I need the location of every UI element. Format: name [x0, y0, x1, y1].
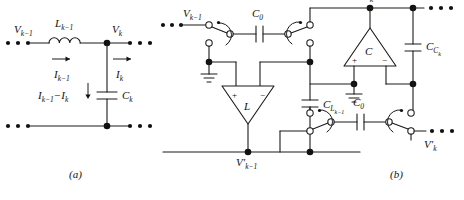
node-bottom-rail — [104, 123, 111, 130]
ellipsis-dot — [128, 41, 132, 45]
ellipsis-dot — [429, 6, 433, 10]
switch-blade — [212, 27, 227, 33]
switch-arc-dot — [318, 109, 321, 112]
switch-terminal-lower — [307, 128, 313, 134]
opamp-inductor-label: L — [243, 100, 250, 112]
label-v-in-b: Vk−1 — [183, 7, 202, 22]
switch-terminal-upper — [408, 110, 414, 116]
ellipsis-dot — [138, 124, 142, 128]
ellipsis-dot — [138, 41, 142, 45]
opamp-inductor-minus: − — [260, 90, 265, 100]
caption-b: (b) — [390, 168, 403, 181]
panel-b-circuit: + − L C + − — [160, 0, 464, 200]
caption-a: (a) — [69, 168, 82, 181]
switch-arc-dot — [299, 21, 302, 24]
switch-terminal-upper — [307, 110, 313, 116]
branch-current-arrowhead — [85, 95, 90, 100]
switch-terminal-lower — [206, 40, 212, 46]
label-vk-top: Vk — [363, 0, 374, 4]
opamp-capacitor-minus: − — [382, 55, 387, 65]
ellipsis-dot — [128, 124, 132, 128]
label-cap-c: CCk — [426, 40, 441, 57]
label-cap-bottom: C0 — [353, 96, 364, 111]
switch-arc-dot — [400, 109, 403, 112]
ellipsis-dot — [148, 41, 152, 45]
switch-pole — [285, 31, 291, 37]
label-cap-l: CLk−1 — [323, 98, 344, 115]
switch-blade — [392, 123, 408, 129]
switch-terminal-lower — [307, 40, 313, 46]
switch-pole — [386, 119, 392, 125]
node-bottom-rail-b — [307, 149, 314, 156]
label-vprime-k1: V′k−1 — [236, 156, 257, 171]
ellipsis-dot — [430, 129, 434, 133]
label-vprime-k: V′k — [424, 138, 437, 153]
label-cap-top: C0 — [252, 7, 263, 22]
panel-a-circuit: Vk−1 Lk−1 Ik−1 Vk Ik Ik−1−Ik Ck (a) — [0, 0, 165, 200]
ellipsis-dot — [16, 124, 20, 128]
switch-arc-dot — [217, 21, 220, 24]
opamp-capacitor-plus: + — [352, 55, 357, 65]
label-capacitor: Ck — [122, 89, 133, 104]
figure-container: Vk−1 Lk−1 Ik−1 Vk Ik Ik−1−Ik Ck (a) — [0, 0, 464, 200]
current-arrowhead-ik — [127, 56, 132, 61]
label-v-out: Vk — [112, 23, 123, 38]
opamp-capacitor-label: C — [365, 45, 373, 57]
inductor-coil — [49, 38, 80, 43]
ellipsis-dot — [6, 124, 10, 128]
ellipsis-dot — [170, 23, 174, 27]
switch-blade — [313, 123, 328, 129]
ellipsis-dot — [440, 129, 444, 133]
opamp-inductor-plus: + — [232, 90, 237, 100]
current-arrowhead-ik1 — [66, 56, 71, 61]
switch-pole — [227, 31, 233, 37]
switch-terminal-upper — [307, 22, 313, 28]
ellipsis-dot — [148, 124, 152, 128]
switch-pole — [328, 119, 334, 125]
label-v-in: Vk−1 — [14, 23, 33, 38]
switch-blade — [291, 27, 307, 33]
label-current-in: Ik−1 — [53, 68, 70, 83]
label-inductor: Lk−1 — [54, 17, 73, 32]
ellipsis-dot — [439, 6, 443, 10]
ellipsis-dot — [161, 23, 165, 27]
ellipsis-dot — [450, 129, 454, 133]
switch-terminal-lower — [408, 128, 414, 134]
ellipsis-dot — [449, 6, 453, 10]
label-branch-current: Ik−1−Ik — [37, 89, 69, 104]
ellipsis-dot — [16, 41, 20, 45]
node-vprime-k1 — [245, 149, 252, 156]
switch-terminal-upper — [206, 22, 212, 28]
label-current-out: Ik — [115, 68, 124, 83]
ellipsis-dot — [6, 41, 10, 45]
